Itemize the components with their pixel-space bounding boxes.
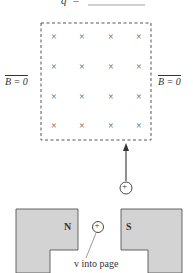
into-page-mark: × xyxy=(108,91,114,102)
equals-sign: = xyxy=(73,0,79,6)
velocity-label: v into page xyxy=(74,258,118,269)
into-page-mark: × xyxy=(79,120,85,131)
north-label: N xyxy=(64,221,71,232)
into-page-mark: × xyxy=(108,120,114,131)
charge-symbol: + xyxy=(122,181,127,191)
into-page-mark: × xyxy=(136,61,142,72)
north-magnet-pole xyxy=(16,209,78,273)
field-region-border xyxy=(41,23,151,140)
variable-q: q xyxy=(61,0,67,6)
leader-line xyxy=(86,233,96,258)
diagram-canvas xyxy=(0,0,193,273)
left-field-label: B = 0 xyxy=(5,76,28,87)
into-page-mark: × xyxy=(136,31,142,42)
into-page-mark: × xyxy=(136,120,142,131)
into-page-mark: × xyxy=(51,61,57,72)
into-page-mark: × xyxy=(79,31,85,42)
right-field-label: B = 0 xyxy=(158,76,181,87)
into-page-mark: × xyxy=(51,120,57,131)
into-page-mark: × xyxy=(136,91,142,102)
arrowhead-icon xyxy=(123,143,129,151)
into-page-mark: × xyxy=(108,61,114,72)
into-page-mark: × xyxy=(51,91,57,102)
into-page-mark: × xyxy=(79,91,85,102)
into-page-mark: × xyxy=(51,31,57,42)
south-label: S xyxy=(126,221,132,232)
into-page-mark: × xyxy=(108,31,114,42)
charge-symbol-between-magnets: + xyxy=(95,220,100,230)
into-page-mark: × xyxy=(79,61,85,72)
south-magnet-pole xyxy=(121,209,182,273)
